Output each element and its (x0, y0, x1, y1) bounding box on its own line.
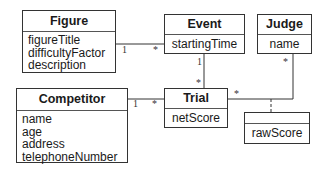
multiplicity-label: 1 (133, 98, 138, 109)
attribute: telephoneNumber (22, 151, 122, 164)
attribute: netScore (170, 112, 222, 125)
multiplicity-label: * (153, 44, 158, 55)
attribute: address (22, 138, 122, 151)
class-name: Competitor (17, 89, 127, 111)
class-attributes: name age address telephoneNumber (17, 111, 127, 165)
class-name: Event (165, 15, 244, 35)
multiplicity-label: 1 (197, 56, 202, 67)
attribute: startingTime (170, 38, 239, 51)
multiplicity-label: * (283, 56, 288, 67)
class-attributes: figureTitle difficultyFactor description (23, 32, 115, 74)
class-attributes: startingTime (165, 35, 244, 53)
class-name (245, 113, 309, 124)
association-class-rawscore: rawScore (244, 112, 310, 144)
attribute: description (28, 59, 110, 72)
class-attributes: netScore (165, 109, 227, 127)
class-name: Figure (23, 11, 115, 32)
class-competitor: Competitor name age address telephoneNum… (16, 88, 128, 163)
attribute: name (22, 113, 122, 126)
attribute: figureTitle (28, 34, 110, 47)
multiplicity-label: * (196, 77, 201, 88)
class-attributes: name (258, 35, 311, 53)
class-trial: Trial netScore (164, 88, 228, 128)
class-event: Event startingTime (164, 14, 245, 54)
class-name: Judge (258, 15, 311, 35)
multiplicity-label: 1 (122, 44, 127, 55)
class-name: Trial (165, 89, 227, 109)
class-judge: Judge name (257, 14, 312, 54)
multiplicity-label: * (152, 98, 157, 109)
class-figure: Figure figureTitle difficultyFactor desc… (22, 10, 116, 73)
multiplicity-label: * (234, 88, 239, 99)
class-attributes: rawScore (245, 124, 309, 142)
attribute: name (263, 38, 306, 51)
attribute: rawScore (250, 127, 304, 140)
